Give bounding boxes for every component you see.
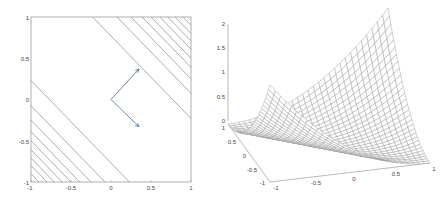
y-tick-label: -0.5 — [19, 139, 30, 145]
x-tick-label: 1 — [432, 166, 436, 172]
surface-mesh — [228, 8, 430, 164]
mesh-cell — [423, 161, 430, 164]
figure-canvas: -1 -0.5 0 0.5 1 1 0.5 0 -0.5 -1 — [0, 0, 448, 203]
y-tick-label: 0.5 — [21, 56, 30, 62]
x-tick-label: -1 — [273, 185, 279, 191]
surface-axes: 2 1.5 1 0.5 0 1 0.5 0 -0.5 -1 -1 -0.5 0 … — [217, 8, 437, 191]
y-tick-label: 1 — [222, 125, 226, 131]
figure: -1 -0.5 0 0.5 1 1 0.5 0 -0.5 -1 — [0, 0, 448, 203]
x-tick-label: -0.5 — [311, 180, 322, 186]
y-tick-label: -1 — [24, 180, 30, 186]
x-tick-label: 1 — [189, 185, 193, 191]
z-tick-label: 2 — [222, 21, 226, 27]
y-tick-label: 0.5 — [228, 139, 237, 145]
y-tick-label: -1 — [260, 180, 266, 186]
y-tick-label: 1 — [26, 15, 30, 21]
z-ticks: 2 1.5 1 0.5 0 — [217, 21, 226, 124]
z-tick-label: 0.5 — [217, 94, 226, 100]
x-tick-label: 0 — [352, 176, 356, 182]
x-tick-label: 0.5 — [147, 185, 156, 191]
z-tick-label: 0 — [222, 118, 226, 124]
y-tick-label: 0 — [26, 97, 30, 103]
x-axis — [270, 163, 430, 182]
y-tick-label: 0 — [243, 153, 247, 159]
y-tick-label: -0.5 — [247, 167, 258, 173]
contour-axes: -1 -0.5 0 0.5 1 1 0.5 0 -0.5 -1 — [19, 15, 194, 191]
x-tick-label: 0 — [109, 185, 113, 191]
x-tick-label: 0.5 — [392, 171, 401, 177]
x-tick-label: -0.5 — [66, 185, 77, 191]
z-tick-label: 1 — [222, 69, 226, 75]
z-tick-label: 1.5 — [217, 45, 226, 51]
contour-y-ticks: 1 0.5 0 -0.5 -1 — [19, 15, 30, 186]
